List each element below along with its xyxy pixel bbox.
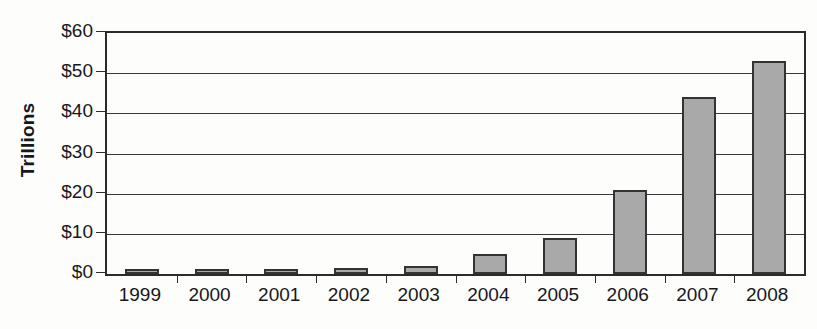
y-tick-mark	[96, 272, 105, 273]
y-tick-mark	[96, 192, 105, 193]
bar	[543, 238, 577, 274]
x-tick-label: 2007	[662, 284, 732, 306]
y-tick-label: $0	[31, 261, 93, 283]
bar	[613, 190, 647, 274]
x-tick-mark	[456, 274, 457, 283]
y-tick-mark	[96, 152, 105, 153]
bar	[264, 269, 298, 274]
x-tick-label: 2005	[523, 284, 593, 306]
x-tick-mark	[525, 274, 526, 283]
y-tick-label: $60	[31, 20, 93, 42]
bar	[752, 61, 786, 274]
y-tick-mark	[96, 232, 105, 233]
x-tick-mark	[316, 274, 317, 283]
bar	[195, 269, 229, 274]
y-tick-mark	[96, 71, 105, 72]
x-tick-mark	[177, 274, 178, 283]
x-tick-label: 2008	[732, 284, 802, 306]
x-tick-label: 2003	[384, 284, 454, 306]
x-tick-label: 2000	[175, 284, 245, 306]
bar	[682, 97, 716, 274]
bar	[404, 266, 438, 274]
bar	[473, 254, 507, 274]
bar-chart-figure: Trillions $0$10$20$30$40$50$60 199920002…	[0, 0, 817, 329]
y-tick-label: $40	[31, 100, 93, 122]
y-tick-label: $20	[31, 181, 93, 203]
bar	[334, 268, 368, 274]
x-tick-label: 2001	[244, 284, 314, 306]
x-tick-label: 2002	[314, 284, 384, 306]
x-tick-mark	[595, 274, 596, 283]
x-tick-mark	[246, 274, 247, 283]
y-tick-label: $10	[31, 221, 93, 243]
x-tick-label: 2006	[593, 284, 663, 306]
y-tick-label: $30	[31, 141, 93, 163]
y-tick-label: $50	[31, 60, 93, 82]
x-tick-mark	[734, 274, 735, 283]
x-tick-label: 1999	[105, 284, 175, 306]
y-tick-mark	[96, 31, 105, 32]
x-tick-label: 2004	[453, 284, 523, 306]
bar	[125, 269, 159, 274]
gridline	[107, 73, 804, 74]
x-tick-mark	[665, 274, 666, 283]
x-tick-mark	[386, 274, 387, 283]
plot-area	[105, 31, 806, 276]
y-tick-mark	[96, 111, 105, 112]
